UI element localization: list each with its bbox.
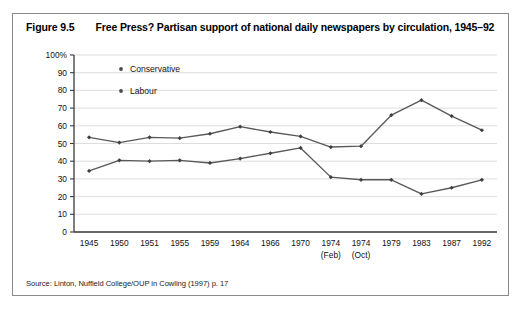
data-point-labour	[450, 186, 454, 190]
y-axis-tick-label: 20	[58, 192, 68, 202]
series-line-labour	[89, 148, 482, 194]
data-point-labour	[419, 192, 423, 196]
figure-number: Figure 9.5	[26, 21, 75, 33]
series-line-conservative	[89, 100, 482, 147]
y-axis-tick-label: 40	[58, 156, 68, 166]
line-chart: 0102030405060708090100%19451950195119551…	[13, 40, 509, 270]
y-axis-tick-label: 0	[62, 227, 67, 237]
data-point-labour	[238, 156, 242, 160]
data-point-labour	[359, 178, 363, 182]
x-axis-tick-sublabel: (Oct)	[352, 250, 371, 260]
y-axis-tick-label: 70	[58, 103, 68, 113]
data-point-conservative	[268, 130, 272, 134]
chart-plot-area: 0102030405060708090100%19451950195119551…	[13, 40, 509, 270]
x-axis-tick-label: 1992	[473, 238, 492, 248]
x-axis-tick-label: 1987	[442, 238, 461, 248]
x-axis-tick-label: 1959	[201, 238, 220, 248]
source-note: Source: Linton, Nuffield College/OUP in …	[26, 279, 228, 288]
data-point-conservative	[238, 125, 242, 129]
data-point-conservative	[147, 135, 151, 139]
y-axis-tick-label: 90	[58, 68, 68, 78]
data-point-labour	[117, 158, 121, 162]
y-axis-tick-label: 50	[58, 139, 68, 149]
data-point-labour	[480, 178, 484, 182]
x-axis-tick-label: 1970	[291, 238, 310, 248]
x-axis-tick-label: 1964	[231, 238, 250, 248]
data-point-conservative	[480, 128, 484, 132]
y-axis-tick-label: 80	[58, 85, 68, 95]
x-axis-tick-label: 1983	[412, 238, 431, 248]
y-axis-tick-label: 60	[58, 121, 68, 131]
x-axis-tick-label: 1979	[382, 238, 401, 248]
figure-title-row: Figure 9.5 Free Press? Partisan support …	[13, 14, 508, 40]
x-axis-tick-label: 1966	[261, 238, 280, 248]
legend-label-conservative[interactable]: Conservative	[130, 64, 180, 74]
data-point-labour	[178, 158, 182, 162]
data-point-conservative	[117, 141, 121, 145]
data-point-labour	[87, 169, 91, 173]
data-point-conservative	[208, 132, 212, 136]
legend-marker-labour	[119, 89, 123, 93]
x-axis-tick-label: 1955	[170, 238, 189, 248]
data-point-labour	[147, 159, 151, 163]
y-axis-tick-label: 30	[58, 174, 68, 184]
data-point-labour	[389, 178, 393, 182]
data-point-labour	[268, 151, 272, 155]
legend-marker-conservative	[119, 67, 123, 71]
figure-frame: Figure 9.5 Free Press? Partisan support …	[12, 13, 509, 296]
data-point-conservative	[178, 136, 182, 140]
x-axis-tick-label: 1974	[322, 238, 341, 248]
x-axis-tick-label: 1950	[110, 238, 129, 248]
x-axis-tick-label: 1945	[80, 238, 99, 248]
x-axis-tick-label: 1974	[352, 238, 371, 248]
y-axis-tick-label: 100%	[46, 50, 68, 60]
x-axis-tick-label: 1951	[140, 238, 159, 248]
legend-label-labour[interactable]: Labour	[130, 86, 157, 96]
page-title: Free Press? Partisan support of national…	[96, 21, 495, 33]
data-point-conservative	[329, 145, 333, 149]
data-point-conservative	[87, 135, 91, 139]
y-axis-tick-label: 10	[58, 209, 68, 219]
data-point-conservative	[299, 134, 303, 138]
x-axis-tick-sublabel: (Feb)	[321, 250, 341, 260]
